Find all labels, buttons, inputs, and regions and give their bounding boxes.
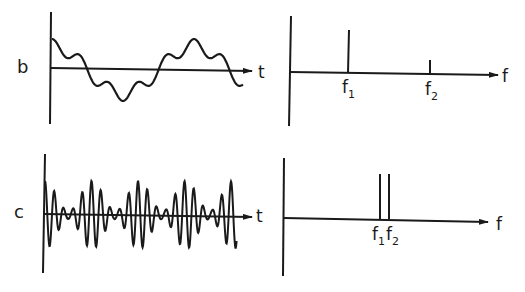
row-label-b: b bbox=[17, 56, 28, 77]
f1-label: f1 bbox=[372, 224, 385, 248]
f-axis-label: f bbox=[502, 66, 509, 86]
panel-b-spectrum: f f1 f2 bbox=[289, 16, 509, 126]
panel-c-time: c t bbox=[14, 154, 263, 273]
f2-label: f2 bbox=[386, 224, 399, 248]
f-axis-label: f bbox=[496, 214, 503, 234]
y-axis bbox=[50, 12, 51, 124]
amplitude-axis bbox=[289, 16, 291, 126]
panel-c-spectrum: f f1 f2 bbox=[283, 158, 503, 276]
spectral-line-f1 bbox=[348, 30, 349, 73]
f1-label: f1 bbox=[342, 77, 355, 101]
f-axis bbox=[284, 218, 488, 222]
f-axis bbox=[290, 72, 498, 75]
f2-label: f2 bbox=[425, 79, 438, 103]
t-axis-label: t bbox=[256, 206, 263, 226]
amplitude-axis bbox=[283, 158, 284, 276]
t-axis bbox=[51, 68, 252, 71]
t-axis-label: t bbox=[258, 62, 265, 82]
signal-spectrum-diagram: b t f f1 f2 c t f f1 f2 bbox=[0, 0, 525, 292]
row-label-c: c bbox=[14, 201, 24, 222]
panel-b-time: b t bbox=[17, 12, 265, 124]
